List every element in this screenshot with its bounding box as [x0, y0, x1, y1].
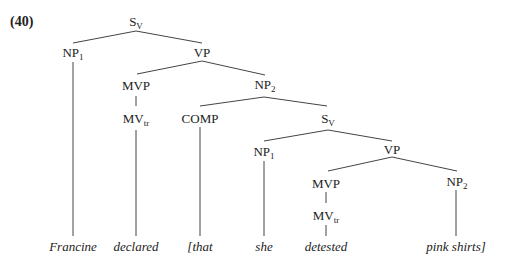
- node-np2-embedded: NP2: [446, 175, 467, 191]
- node-vp-top: VP: [194, 46, 211, 59]
- node-np2-top: NP2: [254, 78, 275, 94]
- node-s-embedded: SV: [321, 112, 335, 128]
- node-np1-embedded: NP1: [253, 145, 274, 161]
- leaf-she: she: [255, 240, 272, 253]
- leaf-declared: declared: [114, 240, 159, 253]
- leaf-that: [that: [187, 240, 212, 253]
- node-mvp-embedded: MVP: [312, 177, 340, 190]
- node-vp-embedded: VP: [384, 143, 401, 156]
- node-mv-tr-top: MVtr: [123, 112, 149, 128]
- leaf-pink-shirts: pink shirts]: [426, 240, 486, 253]
- node-np1-top: NP1: [62, 46, 83, 62]
- node-comp: COMP: [182, 112, 219, 125]
- node-mvp-top: MVP: [122, 79, 150, 92]
- leaf-detested: detested: [305, 240, 348, 253]
- node-mv-tr-embedded: MVtr: [313, 209, 339, 225]
- node-s-root: SV: [129, 15, 143, 31]
- tree-branches: [0, 0, 515, 269]
- leaf-francine: Francine: [49, 240, 97, 253]
